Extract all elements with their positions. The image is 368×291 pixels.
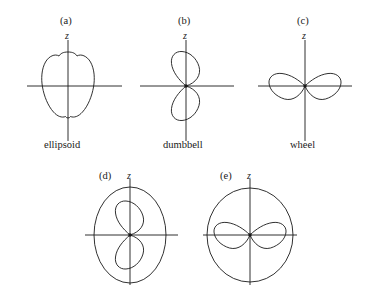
figure-canvas: (a) z ellipsoid (b) z dumbbell (c): [0, 0, 368, 291]
panel-e-wheel-in-circle: (e) z: [0, 0, 368, 291]
panel-e-z-label: z: [247, 171, 251, 181]
panel-e-tag: (e): [220, 171, 232, 182]
panel-e-drawing: [0, 0, 368, 291]
panel-e-origin-dot: [248, 233, 251, 236]
